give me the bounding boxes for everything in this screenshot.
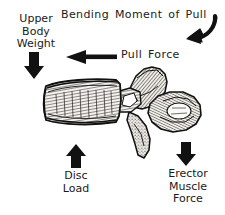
inferior-articular-process: [127, 112, 150, 158]
bending-moment-diagram: Bending Moment of Pull Upper Body Weight…: [0, 0, 225, 215]
erector-muscle-force-line-1: Erector: [157, 168, 219, 181]
erector-muscle-force-line-3: Force: [157, 193, 219, 206]
upper-body-weight-arrow: [24, 52, 44, 79]
disc-load-label: Disc Load: [48, 170, 104, 195]
disc-load-line-2: Load: [48, 183, 104, 196]
vertebral-body: [44, 79, 121, 124]
pull-force-label: Pull Force: [121, 49, 180, 61]
erector-muscle-force-label: Erector Muscle Force: [157, 168, 219, 206]
disc-load-line-1: Disc: [48, 170, 104, 183]
upper-body-weight-line-1: Upper: [9, 13, 63, 26]
spinous-process: [148, 92, 201, 132]
upper-body-weight-label: Upper Body Weight: [9, 13, 63, 51]
disc-load-arrow: [66, 144, 86, 168]
bending-moment-label: Bending Moment of Pull: [61, 9, 207, 21]
erector-muscle-force-arrow: [176, 142, 196, 166]
pull-force-arrow: [66, 50, 117, 64]
upper-body-weight-line-3: Weight: [9, 38, 63, 51]
